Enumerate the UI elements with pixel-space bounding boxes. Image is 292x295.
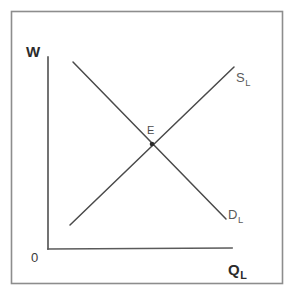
supply-curve-label-base: S <box>236 70 245 85</box>
supply-demand-diagram <box>0 0 292 295</box>
origin-label: 0 <box>31 251 38 264</box>
x-axis-label-subscript: L <box>240 269 247 281</box>
demand-curve-label: DL <box>228 208 243 221</box>
figure-container: W 0 E SL DL QL <box>0 0 292 295</box>
x-axis-line <box>48 248 232 249</box>
supply-curve-label-subscript: L <box>245 78 250 88</box>
demand-curve-label-base: D <box>228 207 237 222</box>
equilibrium-point-marker <box>150 142 155 147</box>
x-axis-label-base: Q <box>228 261 240 278</box>
y-axis-label: W <box>26 44 40 59</box>
supply-curve-label: SL <box>236 71 250 84</box>
x-axis-label: QL <box>228 262 246 277</box>
demand-curve-label-subscript: L <box>238 215 243 225</box>
equilibrium-label: E <box>147 125 154 136</box>
figure-border <box>12 12 283 284</box>
labour-demand-curve-line <box>73 62 226 219</box>
